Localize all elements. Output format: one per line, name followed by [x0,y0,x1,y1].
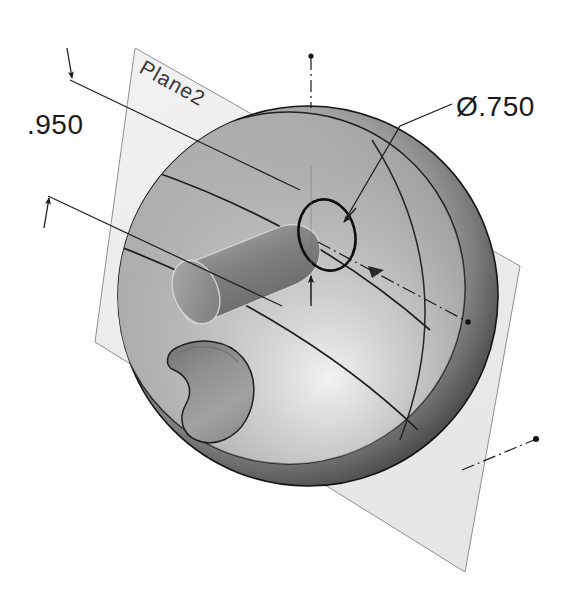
dim-arrow-bottom [44,198,49,228]
dimension-value-950[interactable]: .950 [27,109,84,140]
cad-drawing-canvas: .950 Ø.750 Plane2 [0,0,568,602]
dim-arrow-top [67,48,72,78]
cad-viewport[interactable]: .950 Ø.750 Plane2 [0,0,568,602]
dimension-value-750[interactable]: Ø.750 [456,91,535,122]
centerline-endpoint-dot-top [308,53,313,58]
centerline-endpoint-dot-axis [465,319,471,325]
centerline-endpoint-dot-plane [533,436,539,442]
